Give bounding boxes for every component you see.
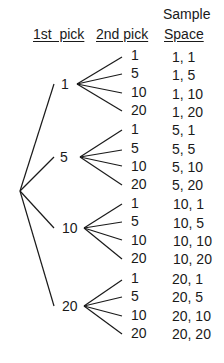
header-first-pick: 1st pick (33, 26, 84, 42)
outcome: 10, 10 (173, 233, 212, 249)
second-pick: 1 (131, 195, 139, 211)
branches-from-1 (77, 57, 122, 111)
second-pick: 5 (131, 288, 139, 304)
first-pick-20: 20 (62, 298, 78, 314)
outcome: 5, 1 (172, 122, 195, 138)
second-pick: 1 (131, 121, 139, 137)
second-pick: 10 (131, 84, 147, 100)
header-sample-space: Space (164, 26, 204, 42)
second-pick: 10 (131, 307, 147, 323)
second-pick: 5 (131, 140, 139, 156)
branches-from-5 (80, 130, 122, 185)
second-pick: 20 (131, 176, 147, 192)
outcome: 5, 5 (172, 141, 195, 157)
second-pick: 1 (131, 47, 139, 63)
outcome: 1, 20 (172, 104, 203, 120)
second-pick: 5 (131, 65, 139, 81)
second-pick: 1 (131, 270, 139, 286)
branches-from-20 (84, 280, 122, 334)
first-pick-10: 10 (62, 220, 78, 236)
outcome: 1, 1 (172, 49, 195, 65)
second-pick: 20 (131, 250, 147, 266)
second-pick: 10 (131, 158, 147, 174)
root-branches (20, 84, 54, 306)
outcome: 5, 20 (172, 177, 203, 193)
second-pick: 5 (131, 213, 139, 229)
outcome: 1, 5 (172, 67, 195, 83)
outcome: 10, 20 (173, 251, 212, 267)
outcome: 10, 5 (173, 215, 204, 231)
outcome: 20, 5 (172, 289, 203, 305)
second-pick: 10 (131, 232, 147, 248)
first-pick-5: 5 (60, 149, 68, 165)
branches-from-10 (84, 204, 122, 259)
outcome: 5, 10 (172, 159, 203, 175)
outcome: 1, 10 (172, 86, 203, 102)
outcome: 20, 20 (172, 326, 211, 342)
header-sample-line1: Sample (163, 6, 210, 22)
header-second-pick: 2nd pick (96, 26, 148, 42)
outcome: 20, 1 (172, 271, 203, 287)
second-pick: 20 (131, 102, 147, 118)
first-pick-1: 1 (61, 76, 69, 92)
second-pick: 20 (131, 325, 147, 341)
outcome: 10, 1 (173, 196, 204, 212)
outcome: 20, 10 (172, 308, 211, 324)
